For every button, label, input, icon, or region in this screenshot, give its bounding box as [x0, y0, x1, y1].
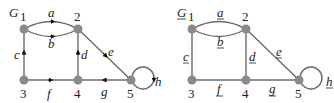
node-1: [20, 25, 29, 34]
edge-a: [192, 22, 246, 30]
arrow-e-icon: [103, 53, 106, 56]
edge-label-e: e: [108, 44, 114, 59]
node-1: [188, 25, 197, 34]
node-5: [127, 76, 136, 85]
directed-graph: G 1 2 3 4 5 a b c d e f: [9, 5, 162, 101]
edge-h: [300, 67, 322, 89]
node-label-1: 1: [20, 9, 27, 24]
edge-label-d: d: [81, 47, 88, 62]
node-2: [74, 25, 83, 34]
edge-label-a: a: [217, 5, 224, 20]
edge-label-g: g: [101, 84, 108, 99]
node-label-2: 2: [74, 9, 81, 24]
edge-label-e: e: [276, 44, 282, 59]
edge-label-b: b: [48, 36, 55, 51]
node-label-1: 1: [188, 9, 195, 24]
node-5: [295, 76, 304, 85]
node-label-5: 5: [127, 86, 134, 101]
edge-label-c: c: [183, 49, 189, 64]
edge-h: [132, 67, 154, 89]
node-4: [74, 76, 83, 85]
edge-label-b: b: [217, 34, 224, 49]
node-label-5: 5: [295, 86, 302, 101]
edge-label-h: h: [326, 74, 333, 89]
edge-label-a: a: [48, 5, 55, 20]
graph-figure: G 1 2 3 4 5 a b c d e f: [0, 0, 334, 103]
edge-label-h: h: [155, 74, 162, 89]
node-label-2: 2: [242, 9, 249, 24]
edge-label-c: c: [14, 47, 20, 62]
node-4: [242, 76, 251, 85]
node-label-3: 3: [20, 86, 27, 101]
node-label-4: 4: [74, 86, 81, 101]
undirected-graph: G 1 2 3 4 5 a b c d e f g h: [177, 5, 333, 101]
edge-label-f: f: [47, 86, 53, 101]
edge-a: [24, 22, 78, 30]
node-3: [188, 76, 197, 85]
node-3: [20, 76, 29, 85]
graph-title: G: [177, 5, 187, 20]
edge-label-g: g: [269, 81, 276, 96]
edge-label-d: d: [249, 49, 256, 64]
node-label-4: 4: [242, 86, 249, 101]
edge-label-f: f: [217, 81, 223, 96]
node-2: [242, 25, 251, 34]
graph-title: G: [9, 5, 19, 20]
node-label-3: 3: [188, 86, 195, 101]
